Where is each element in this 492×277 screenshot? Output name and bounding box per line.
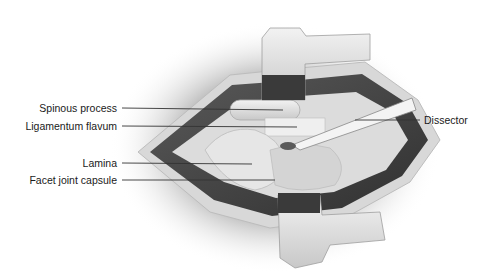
label-lamina: Lamina [83,157,117,169]
dissector-tip [280,142,296,150]
label-facet-joint-capsule: Facet joint capsule [29,174,117,186]
facet-joint-capsule [270,144,341,190]
label-dissector: Dissector [424,114,468,126]
surgical-illustration [0,0,492,277]
label-spinous-process: Spinous process [39,102,117,114]
retractor-bottom-shadow [278,193,320,213]
retractor-top-shadow [262,75,305,100]
label-ligamentum-flavum: Ligamentum flavum [25,120,117,132]
